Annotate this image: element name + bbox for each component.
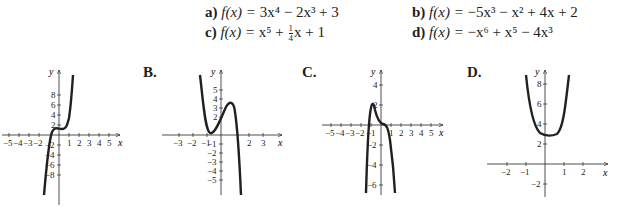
svg-text:3: 3 <box>261 138 266 148</box>
svg-text:−5: −5 <box>207 175 217 185</box>
graphs-canvas: y x −5−4−3−2 12345 8642 −2−4−6−8 y x <box>0 0 627 207</box>
svg-text:5: 5 <box>429 128 434 138</box>
svg-text:1: 1 <box>562 167 567 177</box>
svg-text:6: 6 <box>51 100 56 110</box>
svg-text:−5: −5 <box>3 138 13 148</box>
graph-c: y x −5−4−3−2−1 12345 42 −2−4−6 <box>322 66 444 195</box>
svg-text:2: 2 <box>537 139 542 149</box>
svg-text:4: 4 <box>51 110 56 120</box>
svg-text:−2: −2 <box>187 138 197 148</box>
svg-text:2: 2 <box>213 112 218 122</box>
svg-text:x: x <box>277 137 283 148</box>
svg-text:3: 3 <box>87 138 92 148</box>
svg-text:−3: −3 <box>23 138 33 148</box>
svg-text:y: y <box>370 66 376 77</box>
svg-text:8: 8 <box>51 90 56 100</box>
graph-a: y x −5−4−3−2 12345 8642 −2−4−6−8 <box>2 66 123 205</box>
svg-text:y: y <box>48 66 54 77</box>
svg-text:3: 3 <box>409 128 414 138</box>
svg-text:1: 1 <box>67 138 72 148</box>
svg-text:5: 5 <box>107 138 112 148</box>
svg-text:−3: −3 <box>345 128 355 138</box>
graph-d: y x −2−1 12 8642 −2 <box>487 66 608 197</box>
svg-text:4: 4 <box>373 80 378 90</box>
svg-text:4: 4 <box>537 119 542 129</box>
svg-text:x: x <box>117 137 123 148</box>
svg-text:2: 2 <box>247 138 252 148</box>
svg-text:2: 2 <box>77 138 82 148</box>
svg-text:2: 2 <box>581 167 586 177</box>
graph-b: y x −3−2−1 23 5432 −1−2−3−4−5 <box>162 66 283 195</box>
svg-text:−2: −2 <box>531 179 541 189</box>
svg-text:−5: −5 <box>325 128 335 138</box>
svg-text:8: 8 <box>537 79 542 89</box>
svg-text:6: 6 <box>537 99 542 109</box>
svg-text:−3: −3 <box>173 138 183 148</box>
svg-text:−2: −2 <box>33 138 43 148</box>
svg-text:x: x <box>602 167 608 178</box>
svg-text:y: y <box>210 66 216 77</box>
svg-text:4: 4 <box>419 128 424 138</box>
svg-text:−2: −2 <box>355 128 365 138</box>
svg-text:−4: −4 <box>367 160 377 170</box>
svg-text:−2: −2 <box>501 167 511 177</box>
svg-text:−1: −1 <box>520 167 530 177</box>
svg-text:−4: −4 <box>335 128 345 138</box>
svg-text:−4: −4 <box>13 138 23 148</box>
svg-text:−6: −6 <box>367 180 377 190</box>
svg-text:2: 2 <box>399 128 404 138</box>
svg-text:x: x <box>438 127 444 138</box>
svg-text:4: 4 <box>97 138 102 148</box>
svg-text:y: y <box>534 66 540 77</box>
